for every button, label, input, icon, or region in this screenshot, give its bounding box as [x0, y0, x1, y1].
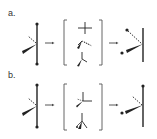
panel-a-arrow-2 [109, 42, 119, 44]
panel-b [22, 83, 145, 130]
panel-b-reactant-molecule [22, 83, 39, 128]
panel-a-intermediate-pyramidal [77, 52, 87, 67]
panel-a-arrow-1 [45, 42, 55, 44]
panel-b-intermediate-pyramidal [76, 113, 87, 129]
panel-a-reactant-molecule [22, 22, 39, 65]
panel-b-arrow-1 [45, 104, 55, 106]
panel-a-product-molecule [120, 28, 143, 62]
panel-b-product-molecule [120, 84, 144, 127]
panel-a-intermediate-wedge-dash [77, 41, 92, 49]
panel-b-intermediate-star [76, 92, 92, 108]
reaction-diagram [0, 0, 157, 139]
panel-a [22, 20, 143, 67]
panel-a-intermediate-cross [78, 22, 92, 34]
panel-a-brackets [64, 20, 102, 65]
panel-b-arrow-2 [109, 104, 119, 106]
